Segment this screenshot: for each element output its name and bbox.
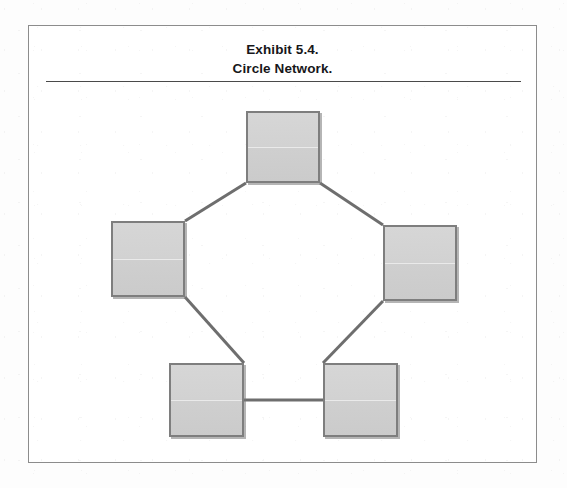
node-right[interactable] [383,225,457,301]
page-canvas: Exhibit 5.4. Circle Network. [0,0,567,488]
node-bottom-right[interactable] [323,363,398,437]
edge-top-to-right [320,183,383,225]
node-bottom-left[interactable] [169,363,244,437]
node-left[interactable] [111,221,185,297]
edge-right-to-bottom-right [323,301,383,363]
edge-layer [29,26,536,462]
edge-top-to-left [185,183,246,221]
circle-network-diagram [29,26,536,462]
node-top[interactable] [246,111,320,183]
edge-left-to-bottom-left [185,297,244,363]
exhibit-frame: Exhibit 5.4. Circle Network. [28,25,537,463]
